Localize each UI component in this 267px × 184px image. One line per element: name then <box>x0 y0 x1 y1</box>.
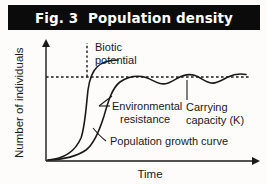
figure-title-bar: Fig. 3 Population density <box>8 5 260 30</box>
biotic-potential-curve <box>48 60 118 160</box>
biotic-potential-label-line2: potential <box>95 54 137 66</box>
environmental-resistance-leader <box>99 96 112 106</box>
environmental-resistance-label-line1: Environmental <box>112 100 182 112</box>
figure-title: Fig. 3 Population density <box>35 10 233 26</box>
population-growth-curve-label: Population growth curve <box>110 135 228 147</box>
population-density-chart: Number of individuals Time Biotic potent… <box>0 30 267 184</box>
environmental-resistance-label-line2: resistance <box>120 113 170 125</box>
x-axis-label: Time <box>137 168 162 180</box>
carrying-capacity-label-line2: capacity (K) <box>186 114 244 126</box>
y-axis-label: Number of individuals <box>13 47 25 158</box>
figure-container: Fig. 3 Population density Number of indi… <box>0 0 267 184</box>
carrying-capacity-label-line1: Carrying <box>186 101 228 113</box>
biotic-potential-label-line1: Biotic <box>95 41 122 53</box>
